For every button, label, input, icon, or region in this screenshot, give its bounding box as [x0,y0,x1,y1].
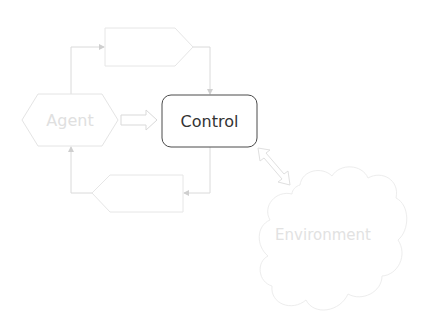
diagram-canvas: Agent Control Environment [0,0,428,331]
agent-node: Agent [22,94,118,146]
control-node: Control [162,95,257,147]
bottom-block [92,175,183,212]
hollow-arrow-agent-to-control [121,110,157,130]
connector-top-block-to-control [193,47,210,94]
double-arrow-control-environment [258,148,290,185]
top-block [105,28,193,66]
connector-bottom-block-to-agent [71,147,92,193]
agent-label: Agent [46,111,93,130]
control-label: Control [181,112,239,131]
environment-node: Environment [259,167,407,310]
connector-control-to-bottom-block [184,147,210,193]
environment-label: Environment [275,226,371,244]
connector-agent-to-top-block [71,47,104,94]
